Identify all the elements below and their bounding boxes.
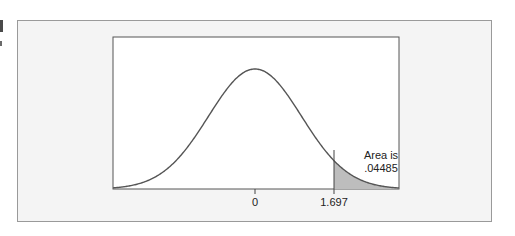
area-annotation-line2: .04485 [364, 162, 398, 174]
tick-label-zero: 0 [252, 196, 258, 208]
density-chart: 0 1.697 Area is .04485 [0, 0, 515, 236]
tick-label-critical: 1.697 [320, 196, 348, 208]
plot-area [113, 37, 399, 189]
area-annotation-line1: Area is [364, 149, 399, 161]
